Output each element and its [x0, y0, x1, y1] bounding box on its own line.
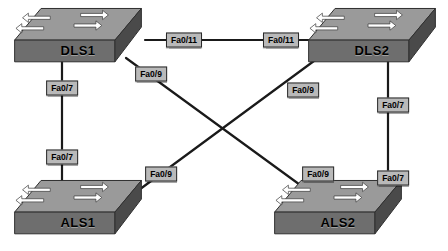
- device-als1[interactable]: ALS1: [12, 178, 144, 240]
- port-label-dls1-p3: Fa0/7: [46, 81, 78, 96]
- port-label-als2-p6: Fa0/7: [377, 171, 409, 186]
- device-label-dls1: DLS1: [12, 43, 144, 58]
- network-diagram: DLS1 DLS2 ALS1 ALS2 Fa0/11Fa0/11F: [0, 0, 448, 251]
- port-label-dls2-p9: Fa0/9: [287, 83, 319, 98]
- device-label-als2: ALS2: [272, 215, 404, 230]
- port-label-dls2-p2: Fa0/11: [263, 33, 299, 48]
- port-label-als1-p4: Fa0/7: [46, 150, 78, 165]
- port-label-dls2-p5: Fa0/7: [377, 98, 409, 113]
- port-label-als2-p8: Fa0/9: [302, 167, 334, 182]
- device-als2[interactable]: ALS2: [272, 178, 404, 240]
- port-label-dls1-p7: Fa0/9: [135, 67, 167, 82]
- port-label-dls1-p1: Fa0/11: [166, 33, 202, 48]
- device-label-als1: ALS1: [12, 215, 144, 230]
- device-dls1[interactable]: DLS1: [12, 6, 144, 68]
- device-dls2[interactable]: DLS2: [306, 6, 438, 68]
- port-label-als1-p10: Fa0/9: [145, 167, 177, 182]
- device-label-dls2: DLS2: [306, 43, 438, 58]
